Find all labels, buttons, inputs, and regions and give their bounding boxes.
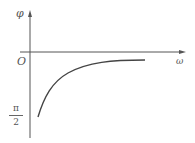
y-tick-label-pi-over-2: π 2: [9, 104, 23, 127]
fraction-bar: [9, 115, 23, 116]
y-axis-arrow-icon: [28, 10, 32, 17]
y-axis-label: φ: [16, 8, 24, 19]
origin-label: O: [17, 56, 26, 67]
x-axis-arrow-icon: [179, 50, 186, 54]
fraction-denominator: 2: [9, 118, 23, 127]
x-axis-label: ω: [176, 57, 183, 66]
fraction-numerator: π: [9, 104, 23, 113]
phase-diagram: [0, 0, 195, 143]
phase-curve: [38, 60, 145, 117]
